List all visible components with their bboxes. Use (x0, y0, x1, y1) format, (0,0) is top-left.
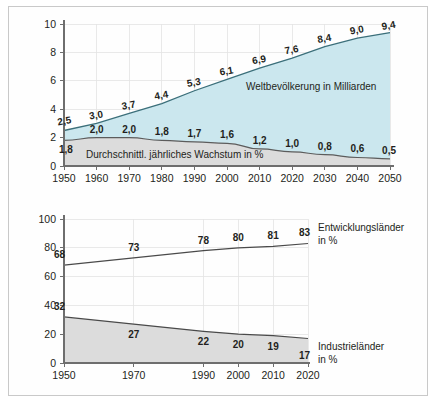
y-tick-label: 10 (44, 18, 56, 30)
y-tick-label: 60 (44, 270, 56, 282)
x-tick-label: 1990 (183, 172, 207, 184)
growth-value-label: 0,6 (350, 143, 364, 154)
x-tick-label: 1960 (85, 172, 109, 184)
x-tick-label: 1950 (52, 172, 76, 184)
population-value-label: 9,0 (349, 23, 365, 36)
population-value-label: 4,4 (153, 88, 169, 101)
x-tick-label: 2030 (313, 172, 337, 184)
growth-value-label: 2,0 (122, 124, 136, 135)
growth-value-label: 1,2 (253, 135, 267, 146)
x-tick-label: 1970 (118, 172, 142, 184)
industrial-legend-label-line2: in % (318, 354, 338, 365)
population-value-label: 8,4 (316, 32, 332, 45)
developing-value-label: 78 (198, 235, 210, 246)
growth-value-label: 1,0 (285, 138, 299, 149)
y-tick-label: 0 (50, 357, 56, 369)
population-value-label: 2,5 (56, 114, 72, 127)
x-tick-label: 2050 (378, 172, 402, 184)
x-tick-label: 2010 (261, 369, 285, 381)
population-value-label: 3,0 (88, 108, 104, 121)
population-value-label: 9,4 (381, 19, 397, 32)
population-value-label: 6,9 (251, 53, 267, 66)
y-tick-label: 8 (50, 46, 56, 58)
industrial-value-label: 32 (54, 301, 66, 312)
x-tick-label: 2020 (296, 369, 320, 381)
growth-value-label: 1,8 (59, 144, 73, 155)
y-tick-label: 0 (50, 160, 56, 172)
x-tick-label: 2000 (215, 172, 239, 184)
growth-value-label: 0,8 (318, 141, 332, 152)
growth-value-label: 1,6 (220, 129, 234, 140)
growth-value-label: 2,0 (90, 124, 104, 135)
growth-value-label: 0,5 (382, 145, 396, 156)
population-value-label: 5,3 (186, 76, 202, 89)
industrial-value-label: 17 (299, 350, 311, 361)
population-value-label: 6,1 (219, 64, 235, 77)
industrial-legend-label-line1: Industrieländer (318, 341, 385, 352)
developing-value-label: 83 (299, 227, 311, 238)
developing-countries-line (64, 243, 308, 265)
y-tick-label: 6 (50, 74, 56, 86)
x-tick-label: 2040 (346, 172, 370, 184)
x-tick-label: 1950 (52, 369, 76, 381)
developing-legend-label-line1: Entwicklungsländer (318, 222, 405, 233)
industrial-value-label: 27 (128, 329, 140, 340)
x-tick-label: 2010 (248, 172, 272, 184)
figure-caption (10, 398, 430, 408)
population-growth-area-chart: 0246810195019601970198019902000201020202… (8, 6, 428, 201)
growth-value-label: 1,8 (155, 126, 169, 137)
x-tick-label: 1990 (192, 369, 216, 381)
chart-panel-population: 0246810195019601970198019902000201020202… (8, 6, 428, 201)
industrial-value-label: 19 (268, 341, 280, 352)
y-tick-label: 20 (44, 328, 56, 340)
y-tick-label: 2 (50, 131, 56, 143)
industrial-value-label: 22 (198, 336, 210, 347)
country-share-line-chart: 0204060801001950197019902000201020206873… (8, 201, 428, 396)
growth-value-label: 1,7 (187, 128, 201, 139)
developing-value-label: 73 (128, 242, 140, 253)
chart-panel-country-share: 0204060801001950197019902000201020206873… (8, 201, 428, 396)
x-tick-label: 2020 (281, 172, 305, 184)
population-value-label: 7,6 (284, 43, 300, 56)
developing-value-label: 80 (233, 232, 245, 243)
x-tick-label: 1970 (122, 369, 146, 381)
growth-series-annotation: Durchschnittl. jährliches Wachstum in % (86, 149, 264, 160)
population-series-annotation: Weltbevölkerung in Milliarden (246, 81, 376, 92)
y-tick-label: 100 (38, 213, 56, 225)
developing-value-label: 81 (268, 230, 280, 241)
y-tick-label: 4 (50, 103, 56, 115)
figure-root: 0246810195019601970198019902000201020202… (0, 0, 437, 408)
developing-legend-label-line2: in % (318, 235, 338, 246)
x-tick-label: 2000 (227, 369, 251, 381)
industrial-value-label: 20 (233, 339, 245, 350)
x-tick-label: 1980 (150, 172, 174, 184)
population-value-label: 3,7 (121, 98, 137, 111)
developing-value-label: 68 (54, 249, 66, 260)
